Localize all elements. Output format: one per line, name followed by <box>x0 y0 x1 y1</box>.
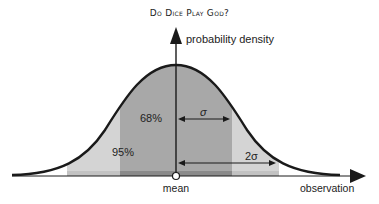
outer-percent-label: 95% <box>112 146 134 158</box>
two-sigma-label: 2σ <box>245 150 258 162</box>
mean-label: mean <box>163 182 189 194</box>
normal-distribution-diagram: probability density observation mean 68%… <box>0 0 379 204</box>
y-axis-arrow-icon <box>170 27 182 44</box>
inner-percent-label: 68% <box>140 112 162 124</box>
x-axis-arrow-icon <box>350 169 366 183</box>
y-axis-label: probability density <box>186 33 275 45</box>
sigma-label: σ <box>200 106 207 118</box>
mean-point <box>173 173 180 180</box>
x-axis-label: observation <box>300 182 354 194</box>
